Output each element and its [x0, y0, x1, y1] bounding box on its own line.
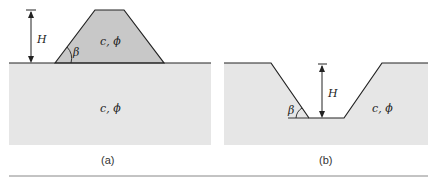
soil-mass	[224, 63, 428, 145]
embankment-label: c, ϕ	[100, 35, 121, 48]
height-dimension-arrow	[318, 64, 327, 118]
foundation-label: c, ϕ	[100, 102, 121, 115]
panel-a: H β c, ϕ c, ϕ (a)	[9, 10, 211, 166]
soil-label: c, ϕ	[372, 102, 393, 115]
height-label: H	[327, 87, 338, 100]
caption-a: (a)	[101, 154, 114, 166]
panel-b: β H c, ϕ (b)	[224, 63, 428, 166]
height-dimension-arrow	[26, 10, 36, 63]
height-label: H	[36, 33, 47, 46]
caption-b: (b)	[319, 154, 332, 166]
angle-label: β	[287, 104, 294, 117]
angle-label: β	[72, 46, 79, 59]
slope-diagram: H β c, ϕ c, ϕ (a) β H c, ϕ (b)	[0, 0, 432, 180]
